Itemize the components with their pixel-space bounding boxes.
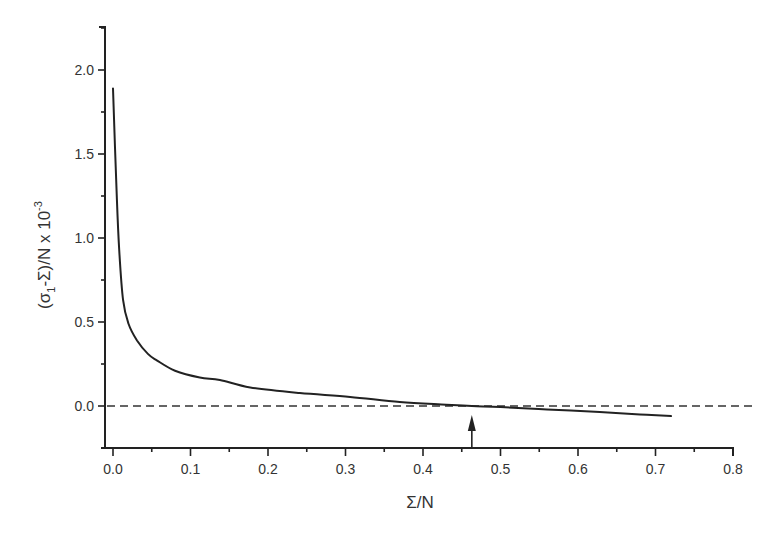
y-axis: 0.00.51.01.52.0 (75, 27, 106, 448)
x-tick-label: 0.1 (181, 461, 201, 477)
x-axis-title: Σ/N (406, 493, 434, 512)
arrow-head (468, 415, 476, 431)
y-axis-title: (σ1-Σ)/N x 10-3 (32, 201, 57, 309)
y-tick-label: 1.5 (75, 146, 95, 162)
y-tick-label: 0.0 (75, 398, 95, 414)
zero-crossing-arrow-icon (468, 415, 476, 447)
x-tick-label: 0.6 (568, 461, 588, 477)
x-tick-label: 0.7 (646, 461, 666, 477)
y-axis-title-superscript: -3 (32, 201, 44, 211)
y-axis-title-open: (σ (35, 292, 54, 309)
y-tick-label: 1.0 (75, 230, 95, 246)
x-tick-label: 0.3 (336, 461, 356, 477)
data-curve (113, 88, 671, 416)
y-tick-label: 2.0 (75, 62, 95, 78)
chart: 0.00.51.01.52.0 0.00.10.20.30.40.50.60.7… (0, 0, 783, 533)
x-axis: 0.00.10.20.30.40.50.60.70.8 (101, 447, 743, 477)
x-tick-label: 0.0 (103, 461, 123, 477)
y-axis-title-middle: -Σ)/N x 10 (35, 211, 54, 287)
y-tick-label: 0.5 (75, 314, 95, 330)
x-tick-label: 0.4 (413, 461, 433, 477)
x-tick-label: 0.5 (491, 461, 511, 477)
x-tick-label: 0.8 (723, 461, 743, 477)
x-tick-label: 0.2 (258, 461, 278, 477)
